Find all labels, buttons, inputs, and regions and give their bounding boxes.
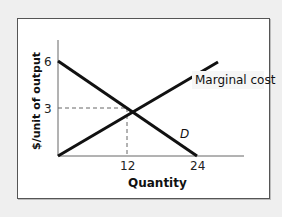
demand-line bbox=[58, 61, 197, 156]
x-axis-label: Quantity bbox=[128, 176, 187, 190]
y-axis-label: $/unit of output bbox=[30, 52, 43, 150]
demand-label: D bbox=[180, 127, 189, 141]
y-tick-6: 6 bbox=[44, 55, 52, 69]
chart-svg: 6 3 12 24 Quantity $/unit of output Marg… bbox=[0, 0, 282, 217]
x-tick-12: 12 bbox=[120, 159, 135, 173]
marginal-cost-label: Marginal cost bbox=[195, 73, 276, 87]
y-tick-3: 3 bbox=[44, 102, 52, 116]
x-tick-24: 24 bbox=[190, 159, 205, 173]
